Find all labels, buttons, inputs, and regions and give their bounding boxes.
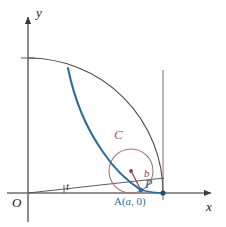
origin-label: O xyxy=(12,196,21,209)
angle-label-t: t xyxy=(66,181,69,192)
y-axis-label: y xyxy=(36,6,42,19)
circle-center-dot xyxy=(129,169,133,173)
point-label-P: P xyxy=(145,178,152,190)
diagram-canvas xyxy=(0,0,226,227)
geometric-figure: y x O t C b P A(a, 0) xyxy=(0,0,226,227)
point-label-A: A(a, 0) xyxy=(114,196,146,207)
circle-label-C: C xyxy=(114,128,123,141)
point-label-A-prefix: A( xyxy=(114,195,126,207)
axes-group xyxy=(7,17,211,222)
point-P-dot xyxy=(139,188,144,193)
point-label-A-suffix: , 0) xyxy=(131,195,146,207)
point-A-dot xyxy=(160,190,165,195)
x-axis-label: x xyxy=(206,200,212,213)
outer-arc xyxy=(28,58,163,193)
